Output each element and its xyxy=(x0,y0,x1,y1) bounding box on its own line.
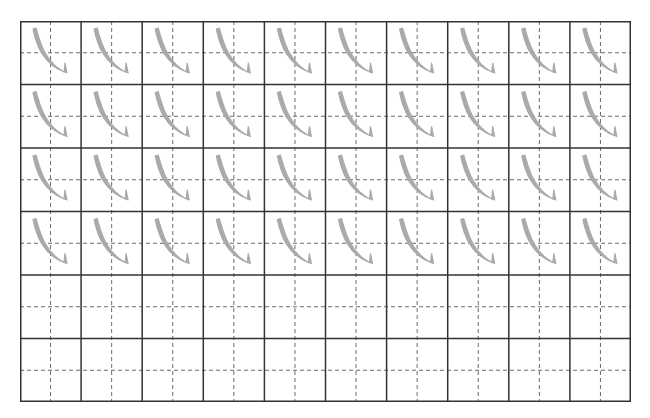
trace-stroke-icon xyxy=(277,28,311,73)
tian-zi-ge-grid xyxy=(20,21,631,402)
trace-stroke-icon xyxy=(94,92,128,137)
trace-stroke-icon xyxy=(339,92,373,137)
trace-stroke-icon xyxy=(522,92,556,137)
trace-stroke-icon xyxy=(400,219,434,264)
trace-stroke-icon xyxy=(461,219,495,264)
trace-stroke-icon xyxy=(461,28,495,73)
tracing-worksheet xyxy=(20,21,631,402)
trace-stroke-icon xyxy=(33,92,67,137)
trace-stroke-icon xyxy=(339,155,373,200)
trace-stroke-icon xyxy=(400,92,434,137)
trace-stroke-icon xyxy=(277,219,311,264)
trace-stroke-icon xyxy=(277,155,311,200)
trace-stroke-icon xyxy=(94,155,128,200)
trace-stroke-icon xyxy=(216,219,250,264)
trace-stroke-icon xyxy=(216,155,250,200)
trace-stroke-icon xyxy=(94,219,128,264)
trace-stroke-icon xyxy=(522,155,556,200)
trace-stroke-icon xyxy=(216,28,250,73)
trace-stroke-icon xyxy=(400,28,434,73)
trace-stroke-icon xyxy=(583,219,617,264)
trace-stroke-icon xyxy=(583,155,617,200)
trace-stroke-icon xyxy=(155,219,189,264)
trace-stroke-icon xyxy=(33,28,67,73)
trace-stroke-icon xyxy=(155,92,189,137)
trace-stroke-icon xyxy=(583,28,617,73)
trace-stroke-icon xyxy=(339,219,373,264)
trace-stroke-icon xyxy=(339,28,373,73)
trace-stroke-icon xyxy=(33,219,67,264)
trace-stroke-icon xyxy=(461,92,495,137)
trace-stroke-icon xyxy=(277,92,311,137)
trace-stroke-icon xyxy=(522,219,556,264)
trace-stroke-icon xyxy=(216,92,250,137)
trace-stroke-icon xyxy=(33,155,67,200)
trace-stroke-icon xyxy=(155,28,189,73)
trace-stroke-icon xyxy=(461,155,495,200)
trace-stroke-icon xyxy=(522,28,556,73)
trace-stroke-icon xyxy=(583,92,617,137)
trace-stroke-icon xyxy=(155,155,189,200)
trace-stroke-icon xyxy=(94,28,128,73)
trace-stroke-icon xyxy=(400,155,434,200)
